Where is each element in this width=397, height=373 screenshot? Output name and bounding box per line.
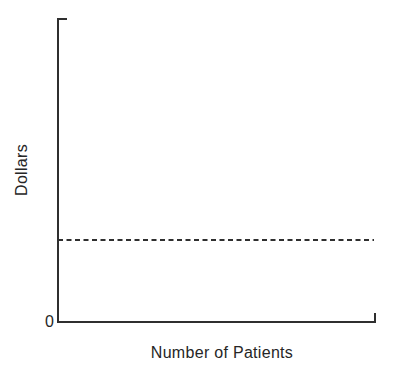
y-axis-label: Dollars (13, 110, 31, 230)
chart-figure: Dollars Number of Patients 0 (0, 0, 397, 373)
chart-canvas (0, 0, 397, 373)
origin-tick-label: 0 (36, 313, 54, 331)
x-axis-label: Number of Patients (122, 344, 322, 362)
